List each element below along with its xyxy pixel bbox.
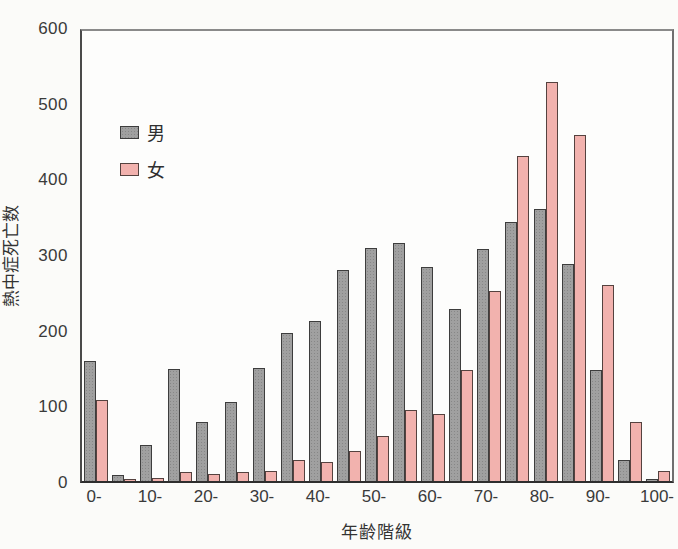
bar-male-55- [393,243,405,482]
bar-female-20- [208,474,220,482]
bar-group-20- [194,31,222,481]
x-tick-label-80-: 80- [528,487,556,509]
bar-male-20- [196,422,208,481]
bar-group-35- [279,31,307,481]
bar-group-30- [251,31,279,481]
x-tick-spacer [444,487,472,509]
bar-group-85- [560,31,588,481]
x-tick-spacer [220,487,248,509]
legend-row-female: 女 [120,156,165,182]
bar-female-100- [658,471,670,481]
bar-group-100- [644,31,672,481]
x-tick-spacer [164,487,192,509]
legend: 男 女 [120,119,165,182]
bar-group-95- [616,31,644,481]
x-tick-label-70-: 70- [472,487,500,509]
bar-male-70- [477,249,489,482]
bar-group-10- [138,31,166,481]
bar-group-25- [222,31,250,481]
bar-female-40- [321,462,333,482]
bar-male-75- [505,222,517,482]
y-tick-label-400: 400 [8,171,68,189]
heatstroke-deaths-by-age-chart: 0100200300400500600 熱中症死亡数 男 女 0-10-20-3… [0,0,678,549]
bar-group-65- [447,31,475,481]
x-tick-label-60-: 60- [416,487,444,509]
bar-female-95- [630,422,642,481]
plot-area: 男 女 [80,29,674,483]
bar-male-95- [618,460,630,481]
bar-group-60- [419,31,447,481]
bar-male-80- [534,209,546,481]
bar-male-65- [449,309,461,481]
bar-male-60- [421,267,433,481]
bar-female-15- [180,472,192,481]
bar-female-55- [405,410,417,481]
bar-female-25- [237,472,249,481]
x-tick-spacer [556,487,584,509]
bar-group-40- [307,31,335,481]
x-tick-label-0-: 0- [80,487,108,509]
bar-group-45- [335,31,363,481]
x-tick-label-20-: 20- [192,487,220,509]
y-tick-label-200: 200 [8,323,68,341]
bar-female-50- [377,436,389,481]
x-axis-tick-labels: 0-10-20-30-40-50-60-70-80-90-100- [80,487,674,509]
bar-female-0- [96,400,108,481]
bar-male-5- [112,475,124,481]
bar-male-35- [281,333,293,481]
x-tick-spacer [500,487,528,509]
bar-male-50- [365,248,377,481]
legend-label-male: 男 [147,119,165,145]
bar-male-100- [646,479,658,481]
bar-female-10- [152,478,164,481]
bar-female-35- [293,460,305,481]
bar-male-25- [225,402,237,481]
bar-male-40- [309,321,321,482]
bar-group-50- [363,31,391,481]
bar-group-0- [82,31,110,481]
bar-group-70- [475,31,503,481]
bar-group-75- [503,31,531,481]
bar-series-container [82,31,672,481]
y-tick-label-100: 100 [8,398,68,416]
y-tick-label-600: 600 [8,20,68,38]
x-tick-label-40-: 40- [304,487,332,509]
bar-male-90- [590,370,602,481]
bar-male-15- [168,369,180,481]
bar-female-70- [489,291,501,482]
bar-male-45- [337,270,349,481]
bar-group-15- [166,31,194,481]
female-swatch-icon [120,163,139,176]
bar-female-30- [265,471,277,482]
x-tick-spacer [612,487,640,509]
bar-female-65- [461,370,473,481]
y-axis-title: 熱中症死亡数 [0,191,22,321]
bar-male-10- [140,445,152,481]
bar-female-45- [349,451,361,481]
bar-female-80- [546,82,558,481]
x-tick-spacer [388,487,416,509]
y-tick-label-0: 0 [8,474,68,492]
bar-group-80- [532,31,560,481]
y-tick-label-500: 500 [8,96,68,114]
legend-row-male: 男 [120,119,165,145]
bar-male-85- [562,264,574,481]
x-tick-label-50-: 50- [360,487,388,509]
x-tick-spacer [332,487,360,509]
bar-female-90- [602,285,614,481]
x-tick-spacer [108,487,136,509]
x-tick-label-10-: 10- [136,487,164,509]
x-tick-spacer [276,487,304,509]
bar-group-90- [588,31,616,481]
x-axis-title: 年齢階級 [80,518,674,543]
x-tick-label-30-: 30- [248,487,276,509]
x-tick-label-100-: 100- [640,487,674,509]
bar-female-60- [433,414,445,481]
legend-label-female: 女 [147,156,165,182]
bar-female-75- [517,156,529,482]
bar-group-55- [391,31,419,481]
bar-female-85- [574,135,586,482]
male-swatch-icon [120,126,139,139]
bar-male-30- [253,368,265,481]
bar-male-0- [84,361,96,481]
